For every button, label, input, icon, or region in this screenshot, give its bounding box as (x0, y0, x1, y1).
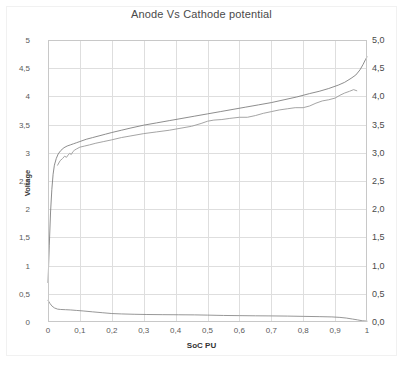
x-axis-tick-label: 0,5 (193, 326, 223, 335)
y-axis-right-tick-label: 5,0 (372, 35, 402, 45)
y-axis-right-tick-label: 4,5 (372, 63, 402, 73)
y-axis-left-tick-label: 4 (0, 92, 30, 101)
y-axis-left-tick-label: 5 (0, 36, 30, 45)
series-layer (48, 40, 367, 322)
x-axis-tick-label: 1 (352, 326, 382, 335)
x-axis-tick-label: 0,4 (161, 326, 191, 335)
x-axis-label: SoC PU (0, 341, 403, 350)
y-axis-right-tick-label: 3,5 (372, 120, 402, 130)
y-axis-left-tick-label: 1,5 (0, 233, 30, 242)
y-axis-right-tick-label: 1,5 (372, 232, 402, 242)
x-axis-tick-label: 0,3 (129, 326, 159, 335)
x-axis-tick-label: 0,6 (224, 326, 254, 335)
x-axis-tick-label: 0,8 (288, 326, 318, 335)
x-axis-tick-label: 0 (33, 326, 63, 335)
x-axis-tick-label: 0,7 (256, 326, 286, 335)
x-axis-tick-label: 0,9 (320, 326, 350, 335)
y-axis-left-tick-label: 2 (0, 205, 30, 214)
series-line (58, 90, 357, 166)
y-axis-left-tick-label: 1 (0, 261, 30, 270)
y-axis-left-tick-label: 3,5 (0, 120, 30, 129)
chart-title: Anode Vs Cathode potential (0, 8, 403, 20)
x-axis-tick-label: 0,2 (97, 326, 127, 335)
y-axis-right-tick-label: 0,5 (372, 289, 402, 299)
y-axis-right-tick-label: 1,0 (372, 261, 402, 271)
y-axis-left-tick-label: 4,5 (0, 64, 30, 73)
plot-area (48, 40, 367, 322)
y-axis-left-tick-label: 2,5 (0, 177, 30, 186)
x-axis-tick-label: 0,1 (65, 326, 95, 335)
series-line (48, 300, 367, 321)
y-axis-left-tick-label: 3 (0, 148, 30, 157)
y-axis-left-tick-label: 0 (0, 318, 30, 327)
y-axis-right-tick-label: 2,5 (372, 176, 402, 186)
y-axis-left-tick-label: 0,5 (0, 289, 30, 298)
chart-figure: Anode Vs Cathode potential Voltage 00,51… (0, 0, 403, 366)
y-axis-right-tick-label: 2,0 (372, 204, 402, 214)
y-axis-right-tick-label: 3,0 (372, 148, 402, 158)
series-line (48, 57, 367, 283)
y-axis-right-tick-label: 4,0 (372, 91, 402, 101)
